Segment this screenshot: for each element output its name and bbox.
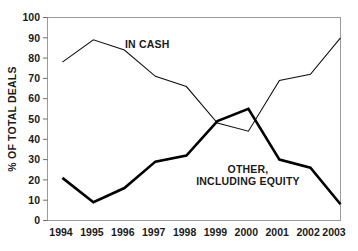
x-tick-label-2001: 2001 (266, 226, 290, 238)
x-tick-label-1997: 1997 (142, 226, 166, 238)
y-tick-label-40: 40 (28, 133, 40, 145)
y-axis-tick-labels: 0 10 20 30 40 50 60 70 80 90 100 (22, 11, 40, 226)
y-tick-label-10: 10 (28, 194, 40, 206)
x-axis-tick-labels: 1994 1995 1996 1997 1998 1999 2000 2001 … (49, 226, 346, 238)
y-tick-label-100: 100 (22, 11, 40, 23)
plot-area-frame (48, 18, 341, 221)
x-tick-label-1999: 1999 (204, 226, 228, 238)
series-annotation-in-cash: IN CASH (125, 38, 170, 50)
y-tick-label-70: 70 (28, 72, 40, 84)
y-tick-label-0: 0 (34, 214, 40, 226)
y-tick-label-30: 30 (28, 153, 40, 165)
x-tick-label-1994: 1994 (49, 226, 73, 238)
x-tick-label-1998: 1998 (173, 226, 197, 238)
series-annotation-other-line2: INCLUDING EQUITY (196, 175, 300, 187)
chart-container: 0 10 20 30 40 50 60 70 80 90 100 % OF TO… (0, 0, 358, 251)
x-tick-label-2000: 2000 (235, 226, 259, 238)
x-tick-label-1996: 1996 (111, 226, 135, 238)
y-tick-label-80: 80 (28, 52, 40, 64)
x-tick-label-2002: 2002 (296, 226, 320, 238)
series-annotation-other-line1: OTHER, (228, 163, 269, 175)
line-chart: 0 10 20 30 40 50 60 70 80 90 100 % OF TO… (0, 0, 358, 251)
y-tick-label-60: 60 (28, 92, 40, 104)
y-tick-label-20: 20 (28, 174, 40, 186)
y-axis-ticks (43, 18, 48, 221)
y-tick-label-90: 90 (28, 32, 40, 44)
x-tick-label-1995: 1995 (80, 226, 104, 238)
x-tick-label-2003: 2003 (322, 226, 346, 238)
y-axis-title: % OF TOTAL DEALS (6, 66, 18, 171)
y-tick-label-50: 50 (28, 113, 40, 125)
